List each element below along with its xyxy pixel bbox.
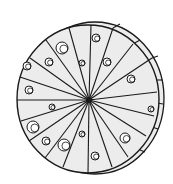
center-dot <box>86 97 92 103</box>
hole-icon <box>91 152 99 160</box>
hole-icon <box>79 131 85 137</box>
center-point <box>86 97 92 103</box>
hole-icon <box>25 86 33 94</box>
hole-icon <box>45 58 53 66</box>
hole-icon <box>127 75 135 83</box>
cheese-wheel-drawing <box>0 0 173 184</box>
hole-icon <box>23 62 31 70</box>
cheese-wheel-illustration <box>0 0 173 184</box>
hole-icon <box>42 137 50 145</box>
hole-icon <box>49 104 55 110</box>
hole-icon <box>56 42 68 54</box>
hole-icon <box>27 121 39 133</box>
hole-icon <box>120 133 130 143</box>
hole-icon <box>148 106 154 112</box>
hole-icon <box>92 34 100 42</box>
hole-icon <box>79 60 85 66</box>
hole-icon <box>58 139 70 151</box>
hole-icon <box>103 58 111 66</box>
